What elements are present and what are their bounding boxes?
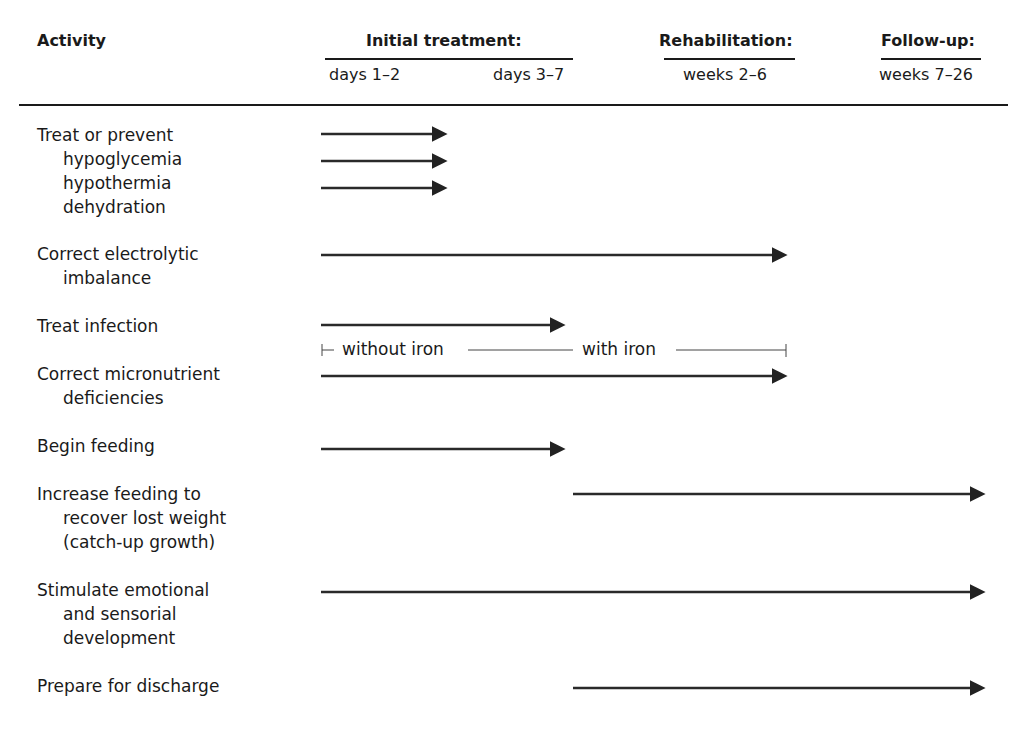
label-with-iron: with iron bbox=[582, 339, 656, 359]
timeline-arrows bbox=[0, 0, 1021, 732]
label-without-iron: without iron bbox=[342, 339, 444, 359]
